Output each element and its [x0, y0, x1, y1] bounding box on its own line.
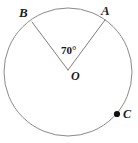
vertex-label-a: A: [101, 4, 110, 17]
circle-geometry-diagram: B A O C 70°: [0, 0, 138, 143]
circle-outline: [4, 8, 132, 136]
vertex-label-c: C: [123, 108, 131, 120]
vertex-label-b: B: [19, 6, 28, 19]
geometry-canvas: [0, 0, 138, 143]
central-angle-label: 70°: [61, 45, 76, 56]
point-marker-c: [114, 111, 120, 117]
center-label-o: O: [71, 70, 80, 82]
